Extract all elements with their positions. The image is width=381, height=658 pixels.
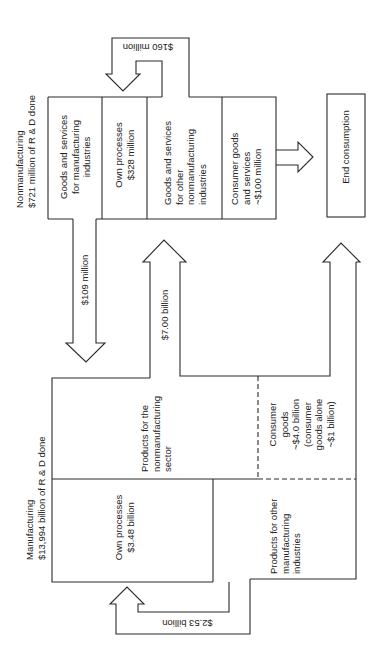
text-line: industries bbox=[81, 112, 93, 202]
nonmfg-header: Nonmanufacturing $721 million of R & D d… bbox=[14, 95, 37, 208]
arrow-mfg-to-nonmfg bbox=[143, 240, 360, 378]
text-line: Products for the bbox=[139, 377, 151, 472]
mfg-header-title: Manufacturing bbox=[24, 436, 36, 560]
text-line: ~$100 million bbox=[252, 110, 264, 205]
text-line: ~$1 billion) bbox=[325, 377, 337, 472]
text-line: Own processes bbox=[113, 480, 125, 575]
arrow-to-end-consumption bbox=[276, 142, 313, 172]
flow-label-2-53b: $2.53 billion bbox=[150, 617, 225, 629]
text-line: goods alone bbox=[313, 377, 325, 472]
end-consumption-label: End consumption bbox=[340, 92, 352, 202]
mfg-box-products-for-nonmfg: Products for the nonmanufacturing sector bbox=[139, 377, 174, 472]
flow-label-160m: $160 million bbox=[117, 41, 179, 53]
text-line: manufacturing bbox=[280, 474, 292, 574]
nonmfg-header-subtitle: $721 million of R & D done bbox=[26, 95, 38, 208]
mfg-box-products-for-other-mfg: Products for other manufacturing industr… bbox=[268, 474, 303, 574]
text-line: $3.48 billion bbox=[125, 480, 137, 575]
text-line: industries bbox=[197, 110, 209, 205]
mfg-header: Manufacturing $13,994 billion of R & D d… bbox=[24, 436, 47, 560]
nonmfg-box-own-processes: Own processes $328 million bbox=[113, 115, 136, 195]
text-line: Own processes bbox=[113, 115, 125, 195]
mfg-header-subtitle: $13,994 billion of R & D done bbox=[36, 436, 48, 560]
text-line: Products for other bbox=[268, 474, 280, 574]
text-line: nonmanufacturing bbox=[185, 110, 197, 205]
text-line: for manufacturing bbox=[70, 112, 82, 202]
text-line: for other bbox=[174, 110, 186, 205]
nonmfg-box-goods-for-other-nonmfg: Goods and services for other nonmanufact… bbox=[162, 110, 208, 205]
text-line: Goods and services bbox=[162, 110, 174, 205]
nonmfg-header-title: Nonmanufacturing bbox=[14, 95, 26, 208]
text-line: sector bbox=[162, 377, 174, 472]
flow-label-109m: $109 million bbox=[79, 230, 91, 330]
flow-label-7b: $7.00 billion bbox=[159, 265, 171, 365]
flow-diagram bbox=[0, 0, 381, 658]
text-line: ~$4.0 billion bbox=[290, 377, 302, 472]
text-line: $328 million bbox=[125, 115, 137, 195]
text-line: nonmanufacturing bbox=[151, 377, 163, 472]
mfg-box-own-processes: Own processes $3.48 billion bbox=[113, 480, 136, 575]
text-line: and services bbox=[241, 110, 253, 205]
text-line: Goods and services bbox=[58, 112, 70, 202]
text-line: (consumer bbox=[302, 377, 314, 472]
text-line: Consumer bbox=[267, 377, 279, 472]
nonmfg-box-goods-for-mfg: Goods and services for manufacturing ind… bbox=[58, 112, 93, 202]
text-line: industries bbox=[291, 474, 303, 574]
text-line: Consumer goods bbox=[229, 110, 241, 205]
mfg-box-consumer-goods: Consumer goods ~$4.0 billion (consumer g… bbox=[267, 377, 336, 472]
text-line: goods bbox=[279, 377, 291, 472]
nonmfg-box-consumer-goods: Consumer goods and services ~$100 millio… bbox=[229, 110, 264, 205]
